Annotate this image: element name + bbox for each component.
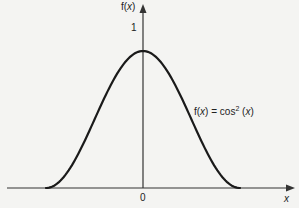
curve-annotation-fn: f(x) = cos [194, 106, 235, 117]
y-axis-arrow-icon [140, 4, 147, 13]
x-axis-label: x [284, 193, 289, 204]
y-axis-label: f(x) [121, 1, 135, 12]
origin-tick-label: 0 [140, 192, 146, 203]
y-axis-label-text: f(x) [121, 1, 135, 12]
curve-annotation-arg: (x) [239, 106, 253, 117]
curve-annotation: f(x) = cos2 (x) [194, 105, 254, 117]
x-axis-arrow-icon [286, 185, 295, 192]
peak-tick-label: 1 [131, 22, 137, 33]
chart-canvas [0, 0, 299, 208]
